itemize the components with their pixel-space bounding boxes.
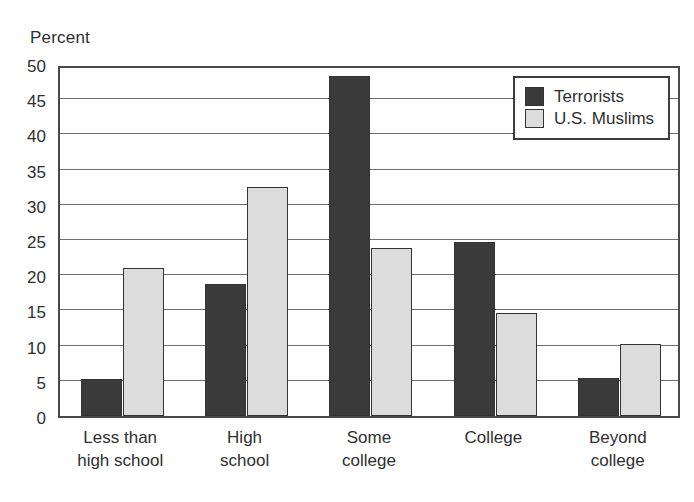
y-tick-label: 20: [27, 269, 46, 286]
y-tick-label: 50: [27, 58, 46, 75]
legend-label: Terrorists: [554, 87, 624, 107]
bar: [205, 284, 246, 416]
y-tick-label: 25: [27, 234, 46, 251]
y-tick-label: 10: [27, 339, 46, 356]
bar: [123, 268, 164, 416]
bar: [496, 313, 537, 416]
x-tick-label-line: school: [182, 449, 306, 472]
y-axis-title: Percent: [30, 28, 90, 48]
bar: [329, 76, 370, 416]
chart-legend: TerroristsU.S. Muslims: [513, 76, 670, 140]
legend-label: U.S. Muslims: [554, 109, 654, 129]
bar: [247, 187, 288, 417]
x-tick-label-line: high school: [58, 449, 182, 472]
x-tick-label-line: College: [431, 426, 555, 449]
x-tick-label-line: college: [556, 449, 680, 472]
legend-item[interactable]: Terrorists: [525, 87, 654, 107]
bar-chart-figure: Percent 05101520253035404550 TerroristsU…: [0, 0, 694, 502]
x-tick-label: Less thanhigh school: [58, 426, 182, 473]
bar: [454, 242, 495, 416]
legend-swatch-icon: [525, 87, 544, 106]
bar: [578, 378, 619, 416]
x-tick-label-line: Beyond: [556, 426, 680, 449]
y-tick-label: 5: [37, 374, 46, 391]
x-tick-label-line: Some: [307, 426, 431, 449]
x-tick-label-line: High: [182, 426, 306, 449]
x-tick-label-line: Less than: [58, 426, 182, 449]
legend-swatch-icon: [525, 109, 544, 128]
y-tick-label: 45: [27, 93, 46, 110]
y-tick-label: 35: [27, 163, 46, 180]
y-tick-label: 40: [27, 128, 46, 145]
bar-group: [60, 68, 184, 416]
y-axis-tick-labels: 05101520253035404550: [0, 66, 54, 418]
x-tick-label: College: [431, 426, 555, 449]
y-tick-label: 15: [27, 304, 46, 321]
y-tick-label: 30: [27, 198, 46, 215]
x-tick-label: Highschool: [182, 426, 306, 473]
bar: [371, 248, 412, 416]
bar: [620, 344, 661, 416]
x-tick-label: Beyondcollege: [556, 426, 680, 473]
bar-group: [309, 68, 433, 416]
x-axis-tick-labels: Less thanhigh schoolHighschoolSomecolleg…: [58, 426, 680, 496]
bar-group: [184, 68, 308, 416]
y-tick-label: 0: [37, 410, 46, 427]
x-tick-label: Somecollege: [307, 426, 431, 473]
bar: [81, 379, 122, 416]
legend-item[interactable]: U.S. Muslims: [525, 109, 654, 129]
x-tick-label-line: college: [307, 449, 431, 472]
